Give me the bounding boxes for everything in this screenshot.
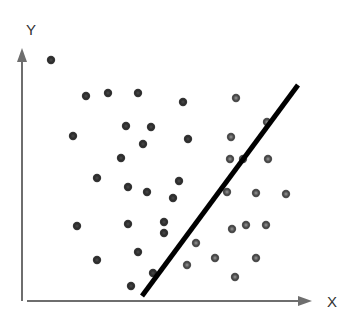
data-point <box>117 154 125 162</box>
data-point <box>179 98 187 106</box>
points-class-b <box>183 94 290 281</box>
data-point <box>169 194 177 202</box>
data-point <box>124 183 132 191</box>
data-point <box>226 155 234 163</box>
data-point <box>282 190 290 198</box>
data-point <box>147 123 155 131</box>
data-point <box>69 132 77 140</box>
data-point <box>160 218 168 226</box>
y-axis-arrowhead-icon <box>17 48 27 62</box>
data-point <box>211 254 219 262</box>
data-point <box>160 229 168 237</box>
x-axis: X <box>27 293 337 310</box>
y-axis-label: Y <box>26 21 36 38</box>
data-point <box>143 188 151 196</box>
data-point <box>122 122 130 130</box>
data-point <box>192 239 200 247</box>
data-point <box>228 225 236 233</box>
data-point <box>262 221 270 229</box>
data-point <box>184 135 192 143</box>
data-point <box>139 140 147 148</box>
data-point <box>264 155 272 163</box>
data-point <box>93 174 101 182</box>
data-point <box>252 189 260 197</box>
data-point <box>47 56 55 64</box>
data-point <box>252 254 260 262</box>
data-point <box>127 282 135 290</box>
data-point <box>231 273 239 281</box>
data-point <box>242 221 250 229</box>
y-axis: Y <box>17 21 36 301</box>
data-point <box>183 261 191 269</box>
data-point <box>175 177 183 185</box>
data-point <box>124 220 132 228</box>
data-point <box>227 133 235 141</box>
data-point <box>93 256 101 264</box>
data-point <box>232 94 240 102</box>
data-point <box>104 89 112 97</box>
scatter-plot: Y X <box>0 0 358 326</box>
data-point <box>73 222 81 230</box>
data-point <box>134 248 142 256</box>
x-axis-arrowhead-icon <box>298 296 312 306</box>
data-point <box>82 92 90 100</box>
x-axis-label: X <box>327 293 337 310</box>
data-point <box>134 89 142 97</box>
separator-line <box>142 85 298 296</box>
